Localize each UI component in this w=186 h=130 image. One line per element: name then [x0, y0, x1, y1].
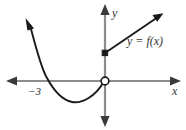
- ray-closed-endpoint-marker: [102, 50, 107, 55]
- origin-open-endpoint-marker: [101, 77, 109, 85]
- x-intercept-label: −3: [28, 85, 41, 97]
- function-label: y = f(x): [126, 34, 163, 48]
- graph-canvas: y x −3 y = f(x): [0, 0, 186, 130]
- y-axis-label: y: [111, 6, 118, 20]
- y-axis-up-arrow-icon: [100, 4, 109, 15]
- parabola-curve: [30, 25, 103, 102]
- x-axis-left-arrow-icon: [6, 76, 17, 85]
- graph-figure: y x −3 y = f(x): [0, 0, 186, 130]
- y-axis-down-arrow-icon: [100, 116, 109, 127]
- x-axis-label: x: [171, 84, 178, 98]
- parabola-arrow-icon: [26, 18, 35, 30]
